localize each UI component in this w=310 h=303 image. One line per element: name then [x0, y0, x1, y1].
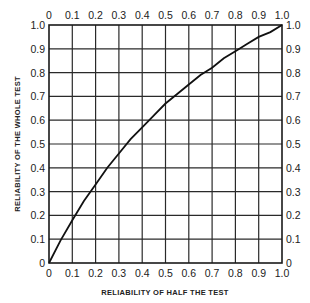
- tick-label: 0.5: [158, 9, 173, 21]
- x-axis-top-ticks: 00.10.20.30.40.50.60.70.80.91.0: [46, 9, 289, 21]
- tick-label: 0.6: [181, 267, 196, 279]
- tick-label: 0: [39, 257, 45, 269]
- tick-label: 0.1: [65, 9, 80, 21]
- tick-label: 0.8: [30, 67, 45, 79]
- grid-lines: [49, 25, 282, 263]
- tick-label: 0.2: [30, 209, 45, 221]
- tick-label: 0.9: [251, 267, 266, 279]
- tick-label: 0.7: [205, 9, 220, 21]
- tick-label: 0.1: [30, 233, 45, 245]
- tick-label: 0.3: [112, 9, 127, 21]
- tick-label: 0.5: [30, 138, 45, 150]
- tick-label: 0.1: [286, 233, 301, 245]
- tick-label: 0.8: [228, 267, 243, 279]
- tick-label: 0.1: [65, 267, 80, 279]
- x-axis-bottom-ticks: 00.10.20.30.40.50.60.70.80.91.0: [46, 267, 289, 279]
- tick-label: 0: [46, 267, 52, 279]
- tick-label: 0.6: [181, 9, 196, 21]
- tick-label: 0.5: [286, 138, 301, 150]
- tick-label: 0.4: [30, 162, 45, 174]
- x-axis-title: RELIABILITY OF HALF THE TEST: [101, 288, 229, 297]
- tick-label: 0.5: [158, 267, 173, 279]
- tick-label: 0: [46, 9, 52, 21]
- tick-label: 0.9: [286, 43, 301, 55]
- tick-label: 0.2: [88, 267, 103, 279]
- y-axis-left-ticks: 00.10.20.30.40.50.60.70.80.91.0: [30, 19, 45, 269]
- tick-label: 0.6: [286, 114, 301, 126]
- tick-label: 0.4: [135, 9, 150, 21]
- tick-label: 1.0: [286, 19, 301, 31]
- tick-label: 0.7: [286, 90, 301, 102]
- tick-label: 0: [286, 257, 292, 269]
- tick-label: 0.7: [30, 90, 45, 102]
- tick-label: 0.9: [251, 9, 266, 21]
- tick-label: 0.9: [30, 43, 45, 55]
- tick-label: 0.8: [286, 67, 301, 79]
- tick-label: 0.4: [286, 162, 301, 174]
- y-axis-right-ticks: 00.10.20.30.40.50.60.70.80.91.0: [286, 19, 301, 269]
- tick-label: 0.8: [228, 9, 243, 21]
- tick-label: 0.3: [286, 186, 301, 198]
- tick-label: 0.7: [205, 267, 220, 279]
- tick-label: 0.3: [112, 267, 127, 279]
- tick-label: 0.4: [135, 267, 150, 279]
- tick-label: 0.3: [30, 186, 45, 198]
- tick-label: 1.0: [30, 19, 45, 31]
- reliability-chart: 00.10.20.30.40.50.60.70.80.91.0 00.10.20…: [0, 0, 310, 303]
- tick-label: 0.2: [286, 209, 301, 221]
- tick-label: 0.2: [88, 9, 103, 21]
- y-axis-title: RELIABILITY OF THE WHOLE TEST: [13, 76, 22, 212]
- tick-label: 0.6: [30, 114, 45, 126]
